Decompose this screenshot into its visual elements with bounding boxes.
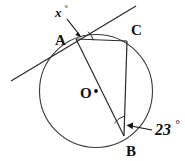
label-angle-23-degree: ° <box>175 118 180 130</box>
geometry-figure: A B C O x ° 23 ° <box>0 0 185 161</box>
geometry-canvas: A B C O x ° 23 ° <box>0 0 185 161</box>
label-center-o: O <box>80 85 92 101</box>
label-angle-x: x <box>54 5 62 20</box>
leader-line-23 <box>131 126 152 130</box>
label-angle-x-degree: ° <box>64 3 68 13</box>
label-angle-23: 23 <box>154 121 171 138</box>
arrowhead-x <box>75 32 81 38</box>
label-point-a: A <box>55 32 66 48</box>
label-point-b: B <box>126 143 136 159</box>
tangent-line <box>11 6 136 81</box>
label-point-c: C <box>131 22 142 38</box>
chord-cb <box>124 41 127 136</box>
arrowhead-23 <box>127 123 134 130</box>
center-dot <box>94 89 98 93</box>
